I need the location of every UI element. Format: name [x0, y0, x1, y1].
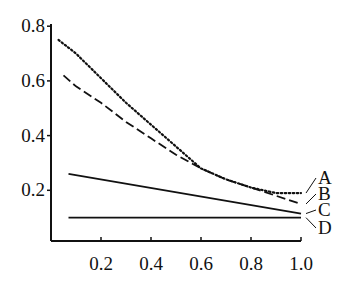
x-tick-label: 0.6	[189, 253, 213, 274]
label-leader-line	[306, 178, 316, 193]
series-line-a	[59, 40, 302, 193]
label-leader-line	[306, 210, 316, 214]
axes: 0.20.40.60.80.20.40.60.81.0	[21, 15, 313, 274]
label-leader-line	[306, 218, 316, 228]
y-tick-label: 0.6	[21, 70, 45, 91]
series-line-b	[64, 75, 302, 204]
line-chart: 0.20.40.60.80.20.40.60.81.0 ABCD	[0, 0, 348, 284]
y-tick-label: 0.8	[21, 15, 45, 36]
x-tick-label: 1.0	[289, 253, 313, 274]
y-tick-label: 0.2	[21, 179, 45, 200]
x-tick-label: 0.4	[139, 253, 163, 274]
series-lines	[59, 40, 302, 218]
series-line-c	[69, 174, 302, 214]
x-tick-label: 0.2	[89, 253, 113, 274]
x-tick-label: 0.8	[239, 253, 263, 274]
y-tick-label: 0.4	[21, 125, 45, 146]
series-label-d: D	[318, 217, 332, 238]
series-labels: ABCD	[306, 167, 332, 238]
label-leader-line	[306, 194, 316, 204]
